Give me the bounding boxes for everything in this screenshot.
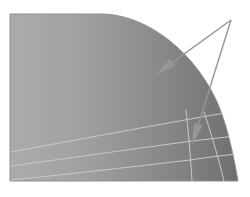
figure-root — [0, 0, 250, 197]
technical-figure-canvas — [0, 0, 250, 197]
